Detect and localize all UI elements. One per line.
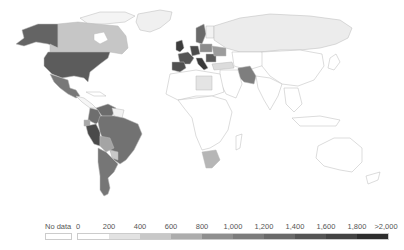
legend-tick: 1,200 <box>255 222 274 231</box>
world-map <box>0 0 404 215</box>
region-libya <box>196 76 212 90</box>
region-madagascar <box>236 134 242 150</box>
legend-bin <box>140 234 171 239</box>
legend-color-scale <box>77 233 389 240</box>
region-ecuador <box>84 120 90 126</box>
region-africa-north <box>166 70 224 100</box>
region-sweden <box>196 24 206 44</box>
region-se-asia <box>284 88 302 112</box>
legend-bin <box>109 234 140 239</box>
legend-tick: 600 <box>165 222 178 231</box>
region-africa-central <box>178 96 232 150</box>
region-japan <box>328 54 340 70</box>
region-germany <box>190 46 200 56</box>
region-russia <box>214 14 352 52</box>
legend-tick: 1,600 <box>317 222 336 231</box>
region-finland <box>206 26 214 38</box>
legend-bin <box>357 234 388 239</box>
legend-bin <box>171 234 202 239</box>
region-spain <box>172 62 186 72</box>
region-canada <box>50 22 128 54</box>
legend-tick: 1,000 <box>224 222 243 231</box>
legend-bin <box>233 234 264 239</box>
legend-tick: 0 <box>76 222 80 231</box>
region-alaska <box>16 24 58 48</box>
region-central-america <box>76 96 96 108</box>
legend-tick: 1,400 <box>286 222 305 231</box>
region-new-zealand <box>366 172 380 184</box>
legend-bin <box>295 234 326 239</box>
region-turkey <box>212 62 234 70</box>
legend-tick: 200 <box>103 222 116 231</box>
region-middle-east <box>220 70 242 98</box>
legend-no-data-label: No data <box>45 222 71 231</box>
region-caribbean <box>86 92 106 96</box>
legend-bin <box>264 234 295 239</box>
legend-tick: 400 <box>134 222 147 231</box>
region-indonesia <box>292 116 340 126</box>
legend-bin <box>326 234 357 239</box>
legend-bin <box>202 234 233 239</box>
map-legend: No data 0 200 400 600 800 1,000 1,200 1,… <box>0 222 404 248</box>
region-greenland <box>136 10 172 32</box>
region-australia <box>316 138 362 172</box>
region-south-africa <box>202 150 220 168</box>
legend-bin <box>78 234 109 239</box>
region-uk <box>176 40 184 52</box>
legend-no-data-swatch <box>45 233 72 240</box>
legend-tick: 800 <box>196 222 209 231</box>
region-poland <box>200 44 212 52</box>
legend-tick: >2,000 <box>374 222 397 231</box>
region-peru <box>86 124 100 146</box>
legend-tick: 1,800 <box>348 222 367 231</box>
region-ukraine <box>212 46 226 56</box>
region-arctic-islands <box>80 12 135 24</box>
